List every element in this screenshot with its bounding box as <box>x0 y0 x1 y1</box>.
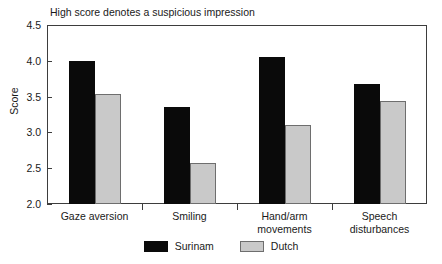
y-tick-mark <box>47 61 52 62</box>
bar-dutch-0 <box>95 94 121 204</box>
chart-title: High score denotes a suspicious impressi… <box>50 6 255 19</box>
category-label-line: movements <box>237 223 332 236</box>
y-tick-label: 4.5 <box>0 20 41 30</box>
y-tick-label: 3.5 <box>0 92 41 102</box>
bar-dutch-1 <box>190 163 216 204</box>
legend-entry-dutch: Dutch <box>240 240 298 252</box>
y-tick-mark <box>47 132 52 133</box>
bar-chart-figure: High score denotes a suspicious impressi… <box>0 0 442 264</box>
y-tick-label: 4.0 <box>0 56 41 66</box>
y-tick-label: 2.0 <box>0 199 41 209</box>
y-tick-mark <box>47 25 52 26</box>
category-label: Smiling <box>142 210 237 223</box>
y-tick-mark <box>47 204 52 205</box>
category-label: Hand/armmovements <box>237 210 332 235</box>
y-tick-mark <box>47 97 52 98</box>
category-label: Speechdisturbances <box>332 210 427 235</box>
legend-entry-surinam: Surinam <box>144 240 214 252</box>
chart-legend: SurinamDutch <box>0 240 442 252</box>
category-label-line: disturbances <box>332 223 427 236</box>
bar-surinam-0 <box>69 61 95 204</box>
y-tick-label: 3.0 <box>0 127 41 137</box>
bar-surinam-2 <box>259 57 285 204</box>
legend-swatch-surinam <box>144 241 168 252</box>
legend-label: Surinam <box>175 240 214 252</box>
y-tick-label: 2.5 <box>0 163 41 173</box>
category-label-line: Hand/arm <box>237 210 332 223</box>
bar-dutch-3 <box>380 101 406 204</box>
category-label-line: Smiling <box>142 210 237 223</box>
category-label: Gaze aversion <box>47 210 142 223</box>
y-tick-mark <box>47 168 52 169</box>
bar-surinam-3 <box>354 84 380 204</box>
category-label-line: Gaze aversion <box>47 210 142 223</box>
legend-swatch-dutch <box>240 241 264 252</box>
category-label-line: Speech <box>332 210 427 223</box>
bar-surinam-1 <box>164 107 190 204</box>
bar-dutch-2 <box>285 125 311 204</box>
legend-label: Dutch <box>271 240 298 252</box>
